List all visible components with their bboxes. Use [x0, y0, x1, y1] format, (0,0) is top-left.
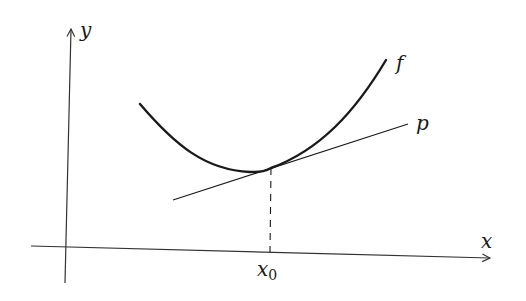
y-axis: [65, 29, 71, 283]
x0-label: x0: [257, 257, 277, 283]
y-axis-label: y: [79, 18, 92, 42]
x0-main: x: [257, 257, 268, 281]
x-axis-label: x: [481, 229, 492, 253]
function-label: f: [394, 51, 407, 75]
tangent-diagram: y x p f x0: [0, 0, 526, 301]
function-curve-f: [140, 60, 386, 172]
x0-subscript: 0: [268, 267, 277, 283]
dashed-drop-line: [270, 168, 271, 252]
tangent-label: p: [416, 111, 429, 135]
